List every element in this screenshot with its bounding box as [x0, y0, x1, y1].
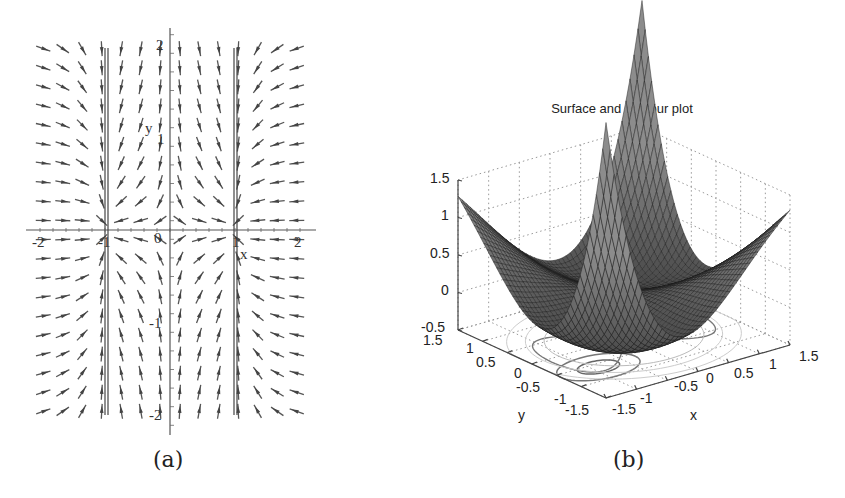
arrow-head-icon — [271, 161, 279, 165]
arrow-head-icon — [252, 180, 260, 185]
arrow-head-icon — [139, 367, 143, 375]
arrow-head-icon — [291, 123, 299, 127]
arrow-head-icon — [197, 47, 201, 55]
arrow-head-icon — [60, 389, 67, 395]
y-tick--1: -1 — [149, 315, 162, 331]
y-tick--0.5: -0.5 — [516, 379, 540, 395]
arrow-head-icon — [61, 314, 69, 318]
x-tick-0: 0 — [154, 230, 162, 246]
arrow-head-icon — [291, 333, 299, 337]
arrow-head-icon — [139, 123, 143, 131]
arrow-head-icon — [159, 291, 163, 299]
arrow-head-icon — [178, 142, 182, 150]
arrow-head-icon — [272, 142, 280, 146]
arrow-head-icon — [135, 218, 143, 222]
arrow-head-icon — [272, 84, 280, 89]
y-tick--1.5: -1.5 — [565, 402, 589, 418]
arrow-head-icon — [272, 370, 280, 375]
arrow-head-icon — [100, 180, 104, 188]
arrow-head-icon — [119, 142, 123, 150]
arrow-head-icon — [217, 85, 221, 93]
arrow-head-icon — [41, 314, 49, 318]
y-tick-1.5: 1.5 — [423, 332, 443, 348]
arrow-head-icon — [197, 85, 201, 93]
arrow-head-icon — [61, 333, 69, 338]
arrow-head-icon — [61, 238, 69, 242]
arrow-head-icon — [120, 386, 124, 394]
arrow-head-icon — [41, 372, 49, 376]
arrow-head-icon — [291, 142, 299, 146]
arrow-head-icon — [116, 218, 124, 222]
arrow-head-icon — [216, 180, 222, 187]
arrow-head-icon — [139, 47, 143, 55]
arrow-head-icon — [61, 104, 69, 109]
arrow-head-icon — [120, 405, 124, 413]
arrow-head-icon — [100, 272, 104, 280]
arrow-head-icon — [139, 104, 143, 112]
x-axis-label: x — [240, 246, 248, 262]
x-tick-0: 0 — [706, 370, 714, 386]
arrow-head-icon — [177, 199, 182, 207]
surface-contour-plot: Surface and contour plot 1.5 1 0.5 0 -0.… — [421, 0, 819, 423]
arrow-head-icon — [197, 329, 201, 337]
arrow-head-icon — [139, 386, 143, 394]
arrow-head-icon — [116, 238, 124, 242]
arrow-head-icon — [61, 123, 69, 128]
caption-b: (b) — [613, 447, 644, 472]
arrow-head-icon — [42, 219, 50, 223]
arrow-head-icon — [80, 65, 86, 72]
arrow-head-icon — [255, 387, 261, 394]
vector-field-plot: -2 -1 0 1 2 x 2 1 -1 -2 y — [26, 28, 316, 435]
arrow-head-icon — [272, 333, 280, 338]
arrow-head-icon — [120, 348, 124, 356]
arrow-head-icon — [60, 370, 68, 375]
arrow-head-icon — [80, 180, 88, 185]
arrow-head-icon — [139, 329, 143, 337]
arrow-head-icon — [135, 238, 143, 242]
arrow-head-icon — [61, 219, 69, 223]
arrow-head-icon — [217, 238, 225, 242]
arrow-head-icon — [291, 65, 299, 69]
arrow-head-icon — [216, 310, 220, 318]
arrow-head-icon — [139, 85, 143, 93]
arrow-head-icon — [216, 291, 221, 299]
arrow-head-icon — [41, 333, 49, 337]
arrow-head-icon — [159, 180, 163, 188]
arrow-head-icon — [291, 46, 299, 50]
arrow-head-icon — [99, 253, 103, 261]
arrow-head-icon — [80, 257, 88, 261]
arrow-head-icon — [41, 85, 49, 89]
y-tick-1: 1 — [466, 340, 474, 356]
arrow-head-icon — [271, 295, 279, 299]
arrow-head-icon — [60, 84, 68, 89]
arrow-head-icon — [118, 273, 124, 280]
arrow-head-icon — [159, 272, 163, 280]
arrow-head-icon — [119, 310, 123, 318]
x-tick-1: 1 — [232, 234, 240, 250]
arrow-head-icon — [80, 406, 85, 414]
arrow-head-icon — [138, 291, 143, 299]
arrow-head-icon — [197, 405, 201, 413]
arrow-head-icon — [80, 387, 86, 394]
arrow-head-icon — [61, 142, 69, 146]
arrow-head-icon — [216, 161, 221, 169]
arrow-head-icon — [120, 367, 124, 375]
arrow-head-icon — [120, 66, 124, 74]
x-tick--1.5: -1.5 — [612, 401, 636, 417]
z-tick-1.5: 1.5 — [430, 170, 450, 186]
arrow-head-icon — [291, 390, 299, 394]
arrow-head-icon — [271, 180, 279, 184]
arrow-head-icon — [197, 66, 201, 74]
arrow-head-icon — [178, 161, 182, 169]
arrow-head-icon — [216, 142, 220, 150]
arrow-head-icon — [197, 161, 202, 169]
arrow-head-icon — [291, 353, 299, 357]
x-tick--1: -1 — [98, 234, 111, 250]
arrow-head-icon — [41, 353, 49, 357]
arrow-head-icon — [197, 238, 205, 242]
arrow-head-icon — [291, 314, 299, 318]
arrow-head-icon — [41, 46, 49, 50]
arrow-head-icon — [120, 85, 124, 93]
surface-patch — [458, 196, 465, 205]
x-tick--1: -1 — [640, 390, 653, 406]
